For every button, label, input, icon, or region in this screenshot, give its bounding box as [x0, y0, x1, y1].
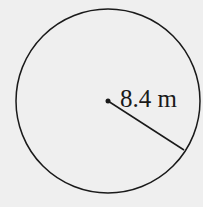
radius-label: 8.4 m [120, 85, 178, 112]
circle-diagram: 8.4 m [0, 0, 203, 207]
